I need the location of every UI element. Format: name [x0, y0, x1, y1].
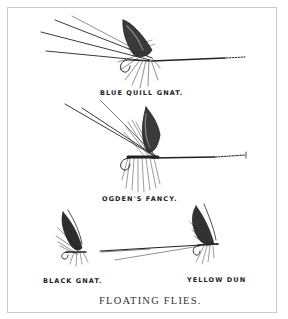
fly-label-yellow-dun: YELLOW DUN	[187, 276, 246, 284]
black-gnat-illustration	[56, 210, 88, 266]
yellow-dun-illustration	[100, 204, 218, 264]
fly-label-blue-quill-gnat: BLUE QUILL GNAT.	[100, 89, 183, 97]
plate-caption: FLOATING FLIES.	[99, 295, 202, 306]
fly-illustrations	[0, 0, 288, 319]
fly-label-ogdens-fancy: OGDEN'S FANCY.	[102, 195, 178, 203]
ogdens-fancy-illustration	[65, 100, 246, 192]
blue-quill-gnat-illustration	[41, 16, 245, 88]
fly-label-black-gnat: BLACK GNAT.	[43, 277, 103, 285]
